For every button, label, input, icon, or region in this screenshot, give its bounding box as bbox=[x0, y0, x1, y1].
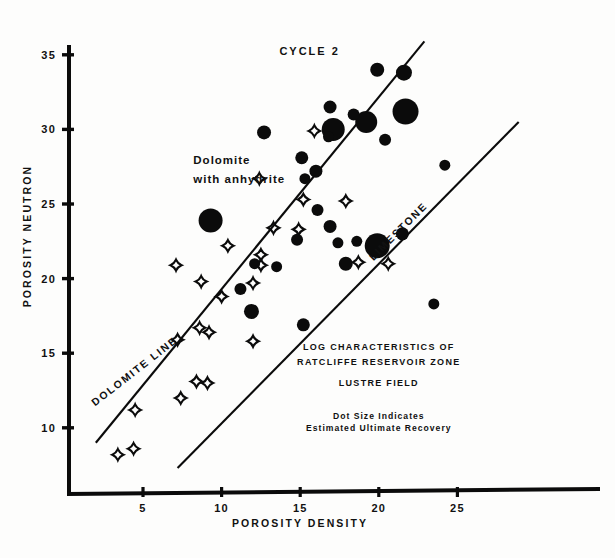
data-point-dot bbox=[348, 108, 360, 120]
data-point-dot bbox=[271, 261, 282, 272]
data-point-star bbox=[309, 125, 320, 136]
cycle-label: CYCLE 2 bbox=[279, 45, 339, 57]
data-point-dot bbox=[299, 173, 310, 184]
scatter-plot-svg: 101520253035 510152025 CYCLE 2Dolomitewi… bbox=[0, 0, 615, 558]
data-point-star bbox=[191, 376, 202, 387]
dolomite-anhydrite-label-line2: with anhydrite bbox=[192, 173, 285, 185]
data-point-dot bbox=[234, 283, 246, 295]
x-axis-line bbox=[67, 489, 600, 494]
data-point-star bbox=[248, 278, 259, 289]
title-block-line2: RATCLIFFE RESERVOIR ZONE bbox=[297, 357, 460, 367]
data-point-star bbox=[196, 276, 207, 287]
data-point-dot bbox=[339, 257, 353, 271]
chart-canvas: 101520253035 510152025 CYCLE 2Dolomitewi… bbox=[0, 0, 615, 558]
title-block-line1: LOG CHARACTERISTICS OF bbox=[303, 342, 455, 352]
data-point-dot bbox=[297, 318, 310, 331]
reference-lines bbox=[96, 41, 519, 468]
data-point-dot bbox=[324, 101, 337, 114]
data-point-dot bbox=[396, 65, 412, 81]
data-point-dot bbox=[393, 98, 419, 124]
data-point-star bbox=[202, 378, 213, 389]
x-tick-label: 10 bbox=[214, 502, 229, 514]
data-point-dot bbox=[311, 204, 323, 216]
data-point-dot bbox=[291, 234, 303, 246]
data-point-star bbox=[340, 196, 351, 207]
data-point-star bbox=[112, 449, 123, 460]
data-point-star bbox=[130, 404, 141, 415]
data-point-dot bbox=[295, 151, 308, 164]
data-point-star bbox=[248, 336, 259, 347]
data-point-dot bbox=[379, 134, 391, 146]
data-point-dot bbox=[428, 298, 439, 309]
y-tick-label: 35 bbox=[41, 49, 56, 61]
x-tick-label: 5 bbox=[139, 502, 146, 514]
limestone-line-label: LIMESTONE bbox=[366, 199, 429, 262]
y-tick-label: 30 bbox=[41, 123, 56, 135]
data-point-dot bbox=[332, 237, 343, 248]
data-point-dot bbox=[309, 165, 322, 178]
data-point-star bbox=[298, 194, 309, 205]
y-tick-label: 25 bbox=[41, 198, 56, 210]
legend-note-line2: Estimated Ultimate Recovery bbox=[306, 423, 451, 433]
x-tick-label: 25 bbox=[450, 502, 465, 514]
data-point-dot bbox=[244, 304, 259, 319]
data-point-star bbox=[175, 392, 186, 403]
data-point-dot bbox=[249, 258, 260, 269]
data-point-star bbox=[171, 260, 182, 271]
data-point-star bbox=[222, 240, 233, 251]
dot-markers-group bbox=[199, 63, 451, 332]
y-axis-title: POROSITY NEUTRON bbox=[21, 151, 33, 321]
data-point-star bbox=[128, 443, 139, 454]
data-point-dot bbox=[370, 63, 384, 77]
data-point-star bbox=[383, 258, 394, 269]
data-point-dot bbox=[351, 236, 362, 247]
data-point-dot bbox=[257, 125, 271, 139]
title-block-line3: LUSTRE FIELD bbox=[339, 378, 419, 388]
y-tick-label: 20 bbox=[41, 273, 56, 285]
data-point-dot bbox=[324, 220, 337, 233]
data-point-dot bbox=[323, 131, 334, 142]
data-point-dot bbox=[439, 160, 450, 171]
data-point-star bbox=[293, 224, 304, 235]
y-tick-label: 10 bbox=[41, 422, 56, 434]
data-point-star bbox=[353, 257, 364, 268]
x-axis-title: POROSITY DENSITY bbox=[150, 517, 450, 529]
dolomite-anhydrite-label-line1: Dolomite bbox=[193, 154, 250, 166]
x-tick-label: 15 bbox=[293, 502, 308, 514]
data-point-dot bbox=[199, 208, 223, 232]
y-tick-label: 15 bbox=[41, 347, 56, 359]
legend-note-line1: Dot Size Indicates bbox=[333, 411, 425, 421]
x-tick-label: 20 bbox=[371, 502, 386, 514]
